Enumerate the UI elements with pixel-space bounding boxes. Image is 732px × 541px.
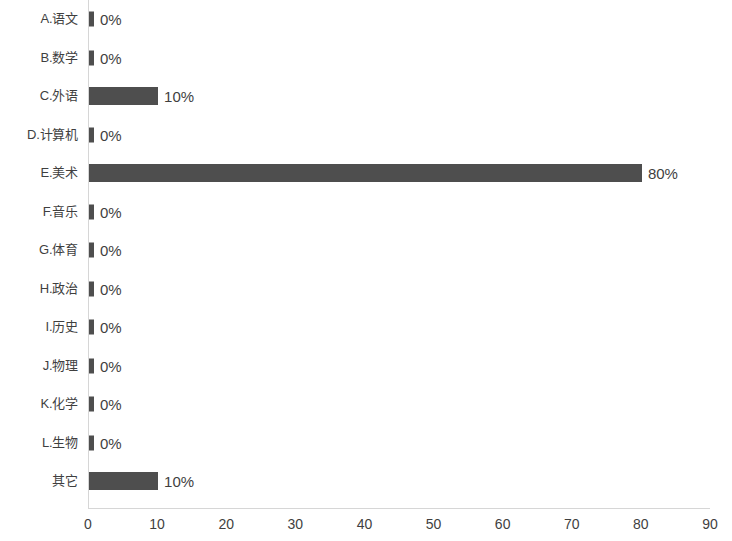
bar-row: G.体育0%	[0, 231, 732, 270]
category-label: L.生物	[0, 435, 78, 451]
bar-value-label: 10%	[164, 473, 194, 490]
bar-row: E.美术80%	[0, 154, 732, 193]
bar-row: F.音乐0%	[0, 193, 732, 232]
bar-value-label: 0%	[100, 11, 122, 28]
bar-row: 其它10%	[0, 462, 732, 501]
bar	[89, 435, 94, 450]
x-tick-label: 0	[68, 516, 108, 533]
bar	[89, 204, 94, 219]
bar	[89, 50, 94, 65]
bar	[89, 320, 94, 335]
bar	[89, 397, 94, 412]
bar	[89, 164, 642, 182]
x-tick-label: 80	[621, 516, 661, 533]
bar-value-label: 80%	[648, 165, 678, 182]
category-label: E.美术	[0, 165, 78, 181]
x-tick-label: 90	[690, 516, 730, 533]
x-tick-label: 60	[483, 516, 523, 533]
x-tick-label: 70	[552, 516, 592, 533]
x-tick-label: 30	[275, 516, 315, 533]
bar-value-label: 0%	[100, 280, 122, 297]
category-label: H.政治	[0, 281, 78, 297]
category-label: F.音乐	[0, 204, 78, 220]
bar	[89, 281, 94, 296]
bar-row: D.计算机0%	[0, 116, 732, 155]
bar-value-label: 0%	[100, 357, 122, 374]
category-label: J.物理	[0, 358, 78, 374]
bar	[89, 358, 94, 373]
bar	[89, 127, 94, 142]
bar-value-label: 0%	[100, 319, 122, 336]
bar-row: B.数学0%	[0, 39, 732, 78]
bar-row: I.历史0%	[0, 308, 732, 347]
x-tick-label: 10	[137, 516, 177, 533]
bar-value-label: 0%	[100, 242, 122, 259]
plot-area: A.语文0%B.数学0%C.外语10%D.计算机0%E.美术80%F.音乐0%G…	[0, 0, 732, 541]
category-label: A.语文	[0, 11, 78, 27]
bar-chart: A.语文0%B.数学0%C.外语10%D.计算机0%E.美术80%F.音乐0%G…	[0, 0, 732, 541]
bar	[89, 472, 158, 490]
x-tick-label: 20	[206, 516, 246, 533]
bar	[89, 243, 94, 258]
x-tick-label: 50	[414, 516, 454, 533]
category-label: G.体育	[0, 242, 78, 258]
bar-value-label: 0%	[100, 434, 122, 451]
category-label: D.计算机	[0, 127, 78, 143]
bar-value-label: 0%	[100, 203, 122, 220]
category-label: K.化学	[0, 396, 78, 412]
bar-row: L.生物0%	[0, 424, 732, 463]
bar-row: J.物理0%	[0, 347, 732, 386]
category-label: B.数学	[0, 50, 78, 66]
bar	[89, 87, 158, 105]
bar-row: C.外语10%	[0, 77, 732, 116]
bar	[89, 12, 94, 27]
bar-row: H.政治0%	[0, 270, 732, 309]
bar-value-label: 0%	[100, 49, 122, 66]
bar-row: K.化学0%	[0, 385, 732, 424]
category-label: I.历史	[0, 319, 78, 335]
category-label: 其它	[0, 473, 78, 489]
bar-value-label: 0%	[100, 396, 122, 413]
bar-row: A.语文0%	[0, 0, 732, 39]
category-label: C.外语	[0, 88, 78, 104]
bar-value-label: 0%	[100, 126, 122, 143]
bar-value-label: 10%	[164, 88, 194, 105]
x-tick-label: 40	[344, 516, 384, 533]
x-axis-line	[88, 508, 710, 509]
